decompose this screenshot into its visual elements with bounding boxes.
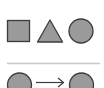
- top-row: [8, 19, 94, 43]
- start-circle-shape: [8, 73, 32, 88]
- circle-shape: [69, 19, 93, 43]
- bottom-row: [8, 73, 94, 88]
- triangle-shape: [38, 20, 63, 42]
- square-shape: [8, 21, 30, 42]
- right-arrow-icon: [36, 78, 64, 87]
- puzzle-diagram: [0, 0, 104, 88]
- end-circle-shape: [70, 73, 94, 88]
